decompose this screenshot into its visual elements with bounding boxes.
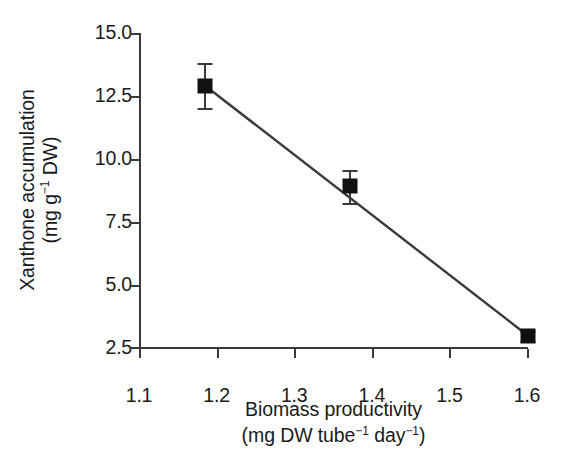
y-tick-label-15-0: 15.0 bbox=[60, 23, 132, 43]
x-tick-mark-1-3 bbox=[294, 349, 296, 358]
y-tick-mark-7-5 bbox=[130, 222, 139, 224]
y-tick-mark-5-0 bbox=[130, 285, 139, 287]
data-point-marker-3 bbox=[521, 328, 536, 343]
data-point-marker-1 bbox=[198, 78, 213, 93]
x-axis-title-line2-prefix: (mg DW tube bbox=[242, 424, 356, 446]
y-tick-mark-15-0 bbox=[130, 33, 139, 35]
y-tick-mark-12-5 bbox=[130, 96, 139, 98]
x-axis-title-line2-superscript-2: −1 bbox=[405, 424, 419, 438]
y-axis-title-line2-superscript: −1 bbox=[39, 181, 53, 195]
y-tick-label-7-5: 7.5 bbox=[60, 212, 132, 232]
x-axis-title-line2: (mg DW tube−1 day−1) bbox=[139, 422, 528, 448]
chart-figure: Xanthone accumulation (mg g−1 DW) 15.0 1… bbox=[0, 0, 570, 463]
y-tick-mark-10-0 bbox=[130, 159, 139, 161]
x-tick-mark-1-4 bbox=[372, 349, 374, 358]
x-axis-title-line2-superscript-1: −1 bbox=[355, 424, 369, 438]
data-point-marker-2 bbox=[342, 179, 357, 194]
error-bar-cap bbox=[342, 203, 357, 205]
y-axis-title-line1: Xanthone accumulation bbox=[16, 89, 39, 291]
x-axis-title-line2-mid: day bbox=[369, 424, 405, 446]
x-axis-title-line1: Biomass productivity bbox=[139, 396, 528, 422]
x-axis-title: Biomass productivity (mg DW tube−1 day−1… bbox=[139, 396, 528, 449]
x-tick-mark-1-1 bbox=[139, 349, 141, 358]
error-bar-cap bbox=[342, 170, 357, 172]
error-bar-cap bbox=[198, 63, 213, 65]
y-tick-label-5-0: 5.0 bbox=[60, 275, 132, 295]
y-tick-label-2-5: 2.5 bbox=[60, 338, 132, 358]
y-tick-label-10-0: 10.0 bbox=[60, 149, 132, 169]
x-axis-title-line2-suffix: ) bbox=[419, 424, 425, 446]
x-tick-mark-1-5 bbox=[449, 349, 451, 358]
plot-area: 1.1 1.2 1.3 1.4 1.5 1.6 bbox=[139, 33, 528, 349]
x-tick-mark-1-6 bbox=[527, 349, 529, 358]
y-tick-label-12-5: 12.5 bbox=[60, 86, 132, 106]
y-tick-mark-2-5 bbox=[130, 347, 139, 349]
x-tick-mark-1-2 bbox=[217, 349, 219, 358]
error-bar-cap bbox=[198, 108, 213, 110]
